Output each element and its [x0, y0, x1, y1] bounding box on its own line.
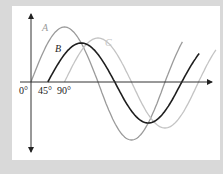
curve-label-a: A	[41, 22, 49, 33]
tick-label-0: 0°	[19, 85, 28, 96]
curve-label-c: C	[105, 37, 112, 48]
phase-diagram: A B C 0° 45° 90°	[0, 0, 223, 174]
curve-label-b: B	[55, 43, 61, 54]
tick-label-90: 90°	[57, 85, 71, 96]
tick-label-45: 45°	[38, 85, 52, 96]
sine-curve-c	[65, 38, 216, 128]
